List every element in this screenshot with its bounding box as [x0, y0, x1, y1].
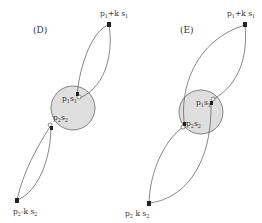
- label-p1-plus-ks1: p1+k s1: [227, 9, 255, 19]
- path-up-left: [77, 25, 109, 96]
- path-up-right: [80, 25, 110, 98]
- vertex-inner-bottom-dot: [50, 126, 53, 130]
- diagram-canvas: (D) p1+k s1 p1s1 p2s2 p2-k s2 (E): [0, 0, 262, 223]
- vertex-inner-top-dot: [76, 92, 79, 96]
- vertex-bottom-marker: [15, 198, 19, 203]
- label-p1-plus-ks1: p1+k s1: [100, 9, 128, 19]
- panel-d: (D) p1+k s1 p1s1 p2s2 p2-k s2: [13, 9, 128, 217]
- vertex-inner-top-marker: [211, 97, 215, 101]
- label-p2-ks2: p2 k s2: [125, 209, 149, 219]
- path-down-right: [17, 128, 51, 200]
- vertex-top-marker: [107, 22, 111, 27]
- panel-e: (E) p1+k s1 p1s1 p2s2 p2 k s2: [125, 9, 255, 219]
- panel-e-label: (E): [180, 25, 194, 35]
- vertex-bottom-marker: [147, 201, 151, 206]
- path-up-return: [212, 25, 246, 100]
- vertex-top-marker: [243, 22, 247, 27]
- label-p2-minus-ks2: p2-k s2: [13, 207, 38, 217]
- panel-d-label: (D): [33, 25, 47, 35]
